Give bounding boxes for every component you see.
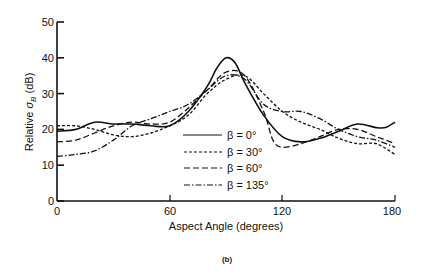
legend-labels: β = 0° β = 30° β = 60° β = 135° — [227, 129, 269, 191]
x-axis-label: Aspect Angle (degrees) — [169, 220, 283, 232]
axes — [57, 22, 395, 201]
y-tick-label: 20 — [42, 123, 54, 135]
legend — [183, 135, 222, 185]
series-line-3 — [57, 75, 395, 157]
x-ticks — [170, 195, 395, 201]
series-line-2 — [57, 70, 395, 147]
y-ticks — [57, 22, 64, 201]
x-tick-label: 60 — [164, 205, 176, 217]
x-tick-label: 180 — [383, 205, 401, 217]
series-line-1 — [57, 75, 395, 155]
chart: 0 10 20 30 40 50 0 60 120 180 Aspect Ang… — [0, 0, 425, 280]
y-tick-label: 30 — [42, 88, 54, 100]
legend-label: β = 135° — [227, 179, 269, 191]
x-tick-labels: 0 60 120 180 — [54, 205, 401, 217]
y-tick-label: 50 — [42, 16, 54, 28]
y-tick-label: 10 — [42, 159, 54, 171]
x-tick-label: 120 — [273, 205, 291, 217]
x-tick-label: 0 — [54, 205, 60, 217]
legend-label: β = 60° — [227, 162, 263, 174]
legend-label: β = 30° — [227, 146, 263, 158]
figure-caption: (b) — [222, 255, 233, 264]
legend-label: β = 0° — [227, 129, 256, 141]
y-tick-labels: 0 10 20 30 40 50 — [42, 16, 54, 207]
series-group — [57, 58, 395, 157]
y-axis-label: Relative σB (dB) — [23, 73, 38, 152]
y-tick-label: 40 — [42, 52, 54, 64]
